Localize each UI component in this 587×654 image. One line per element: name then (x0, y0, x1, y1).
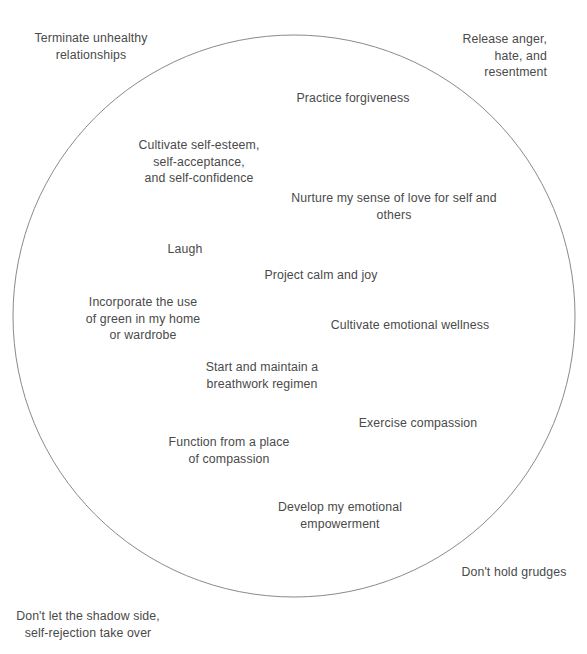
label-exercise-compassion: Exercise compassion (356, 415, 480, 432)
label-cultivate-emotional-wellness: Cultivate emotional wellness (330, 317, 490, 334)
label-terminate-unhealthy-relationships: Terminate unhealthy relationships (26, 30, 156, 63)
label-practice-forgiveness: Practice forgiveness (292, 90, 414, 107)
label-develop-emotional-empowerment: Develop my emotional empowerment (272, 499, 408, 532)
label-dont-hold-grudges: Don't hold grudges (452, 564, 576, 581)
label-function-from-compassion: Function from a place of compassion (161, 434, 297, 467)
label-dont-let-shadow-side: Don't let the shadow side, self-rejectio… (12, 608, 164, 641)
label-breathwork-regimen: Start and maintain a breathwork regimen (198, 359, 326, 392)
label-cultivate-self-esteem: Cultivate self-esteem, self-acceptance, … (129, 137, 269, 187)
diagram-canvas: Terminate unhealthy relationshipsRelease… (0, 0, 587, 654)
label-project-calm-and-joy: Project calm and joy (206, 267, 436, 284)
label-incorporate-green: Incorporate the use of green in my home … (76, 294, 210, 344)
label-nurture-my-sense-of-love: Nurture my sense of love for self and ot… (276, 190, 512, 223)
label-release-anger-hate-resentment: Release anger, hate, and resentment (445, 31, 547, 81)
label-laugh: Laugh (144, 241, 226, 258)
